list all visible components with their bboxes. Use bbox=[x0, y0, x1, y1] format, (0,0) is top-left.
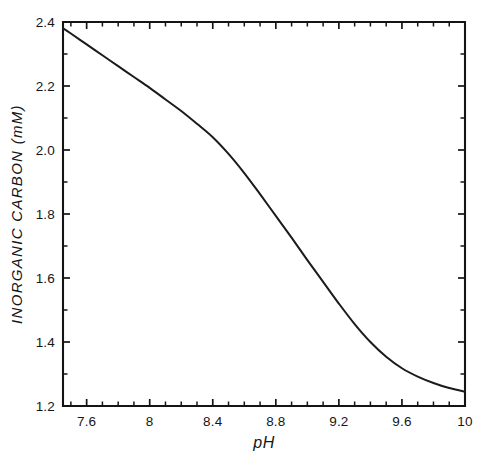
chart-figure: 7.688.48.89.29.610 1.21.41.61.82.02.22.4… bbox=[0, 0, 487, 458]
y-axis-title: INORGANIC CARBON (mM) bbox=[8, 104, 25, 324]
y-tick-label: 1.2 bbox=[36, 399, 55, 414]
y-tick-label: 2.2 bbox=[36, 79, 55, 94]
x-tick-label: 10 bbox=[457, 414, 472, 429]
y-tick-label: 2.4 bbox=[36, 15, 56, 30]
y-tick-label: 1.4 bbox=[36, 335, 56, 350]
x-tick-label: 8.4 bbox=[203, 414, 223, 429]
y-tick-label: 1.6 bbox=[36, 271, 55, 286]
x-tick-label: 9.2 bbox=[329, 414, 348, 429]
chart-background bbox=[0, 0, 487, 458]
y-tick-label: 2.0 bbox=[36, 143, 55, 158]
x-tick-label: 7.6 bbox=[77, 414, 96, 429]
x-tick-label: 8.8 bbox=[266, 414, 285, 429]
x-axis-title: pH bbox=[252, 434, 274, 451]
x-tick-label: 8 bbox=[146, 414, 154, 429]
y-tick-label: 1.8 bbox=[36, 207, 55, 222]
x-tick-label: 9.6 bbox=[392, 414, 411, 429]
inorganic-carbon-vs-ph-chart: 7.688.48.89.29.610 1.21.41.61.82.02.22.4… bbox=[0, 0, 487, 458]
